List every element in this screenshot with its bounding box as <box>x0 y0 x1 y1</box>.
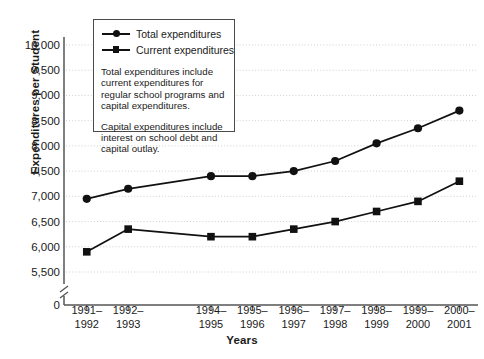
legend-note-total: Total expenditures include current expen… <box>101 66 227 112</box>
chart-legend: Total expenditures Current expenditures … <box>93 19 235 132</box>
x-axis-tick-label: 1992– 1993 <box>95 304 161 331</box>
legend-marker-circle-icon <box>101 28 131 40</box>
legend-label-current: Current expenditures <box>136 44 234 56</box>
legend-label-total: Total expenditures <box>136 28 221 40</box>
x-axis-title: Years <box>0 334 484 346</box>
legend-marker-square-icon <box>101 44 131 56</box>
legend-note-capital: Capital expenditures include interest on… <box>101 121 227 155</box>
y-axis-title: Expenditures per Student <box>29 7 41 197</box>
x-axis-tick-label: 2000– 2001 <box>426 304 484 331</box>
legend-entry-total: Total expenditures <box>101 26 227 41</box>
line-chart: 10,0009,5009,0008,5008,0007,5007,0006,50… <box>0 0 484 359</box>
legend-entry-current: Current expenditures <box>101 42 227 57</box>
x-axis-tick-labels: 1991– 19921992– 19931994– 19951995– 1996… <box>0 0 484 359</box>
